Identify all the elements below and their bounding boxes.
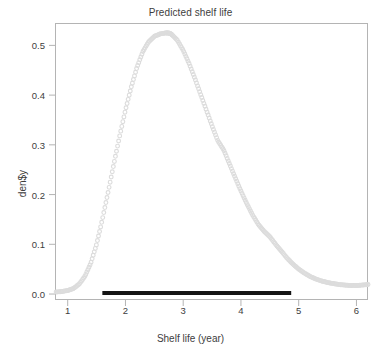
x-tick-label: 2 [113, 305, 137, 316]
x-tick-label: 5 [287, 305, 311, 316]
y-tick-label: 0.4 [11, 90, 45, 101]
density-plot: Predicted shelf life 0.00.10.20.30.40.5 … [0, 0, 381, 357]
y-tick-label: 0.5 [11, 40, 45, 51]
plot-canvas [0, 0, 381, 357]
x-tick-label: 1 [56, 305, 80, 316]
y-tick-label: 0.0 [11, 289, 45, 300]
tick-marks [49, 45, 356, 306]
y-axis-label: den$y [17, 154, 28, 214]
y-tick-label: 0.1 [11, 239, 45, 250]
x-tick-label: 4 [229, 305, 253, 316]
x-axis-label: Shelf life (year) [0, 333, 381, 344]
y-tick-label: 0.3 [11, 139, 45, 150]
x-tick-label: 6 [344, 305, 368, 316]
density-curve-points [54, 31, 370, 294]
x-tick-label: 3 [171, 305, 195, 316]
